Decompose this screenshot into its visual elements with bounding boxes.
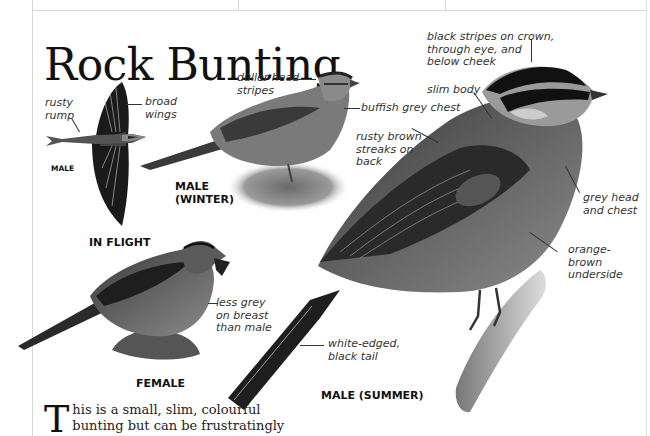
label-duller-head: duller headstripes	[237, 72, 299, 97]
label-black-stripes: black stripes on crown,through eye, andb…	[427, 31, 554, 69]
summer-beak	[590, 90, 608, 100]
winter-tail	[140, 140, 226, 170]
intro-paragraph: This is a small, slim, colourful bunting…	[44, 402, 304, 434]
label-grey-head: grey headand chest	[583, 192, 639, 217]
caption-female: FEMALE	[136, 377, 185, 390]
label-less-grey: less greyon breastthan male	[216, 297, 272, 335]
leader-broad-wings	[126, 104, 142, 105]
label-slim-body: slim body	[427, 84, 480, 97]
label-rusty-brown-streaks: rusty brownstreaks onback	[356, 131, 422, 169]
field-guide-page: Rock Bunting	[0, 0, 650, 436]
caption-male-summer: MALE (SUMMER)	[321, 389, 424, 402]
label-rusty-rump: rustyrump	[45, 97, 74, 122]
female-bird	[18, 241, 230, 360]
female-tail	[18, 300, 108, 350]
caption-male-flight: MALE	[51, 162, 74, 175]
summer-branch	[456, 270, 546, 412]
label-orange-brown: orange-brownunderside	[568, 244, 623, 282]
caption-in-flight: IN FLIGHT	[89, 236, 150, 249]
leader-white-edged	[300, 345, 324, 346]
leader-buffish	[344, 108, 360, 109]
label-white-edged-tail: white-edged,black tail	[328, 338, 400, 363]
flight-lower-wing	[92, 142, 129, 226]
intro-text: his is a small, slim, colourful bunting …	[72, 402, 284, 433]
moss-mound	[226, 161, 350, 213]
drop-cap: T	[44, 404, 69, 434]
caption-male-winter: MALE(WINTER)	[175, 180, 234, 206]
label-broad-wings: broadwings	[145, 96, 177, 121]
label-buffish-grey-chest: buffish grey chest	[361, 102, 460, 115]
